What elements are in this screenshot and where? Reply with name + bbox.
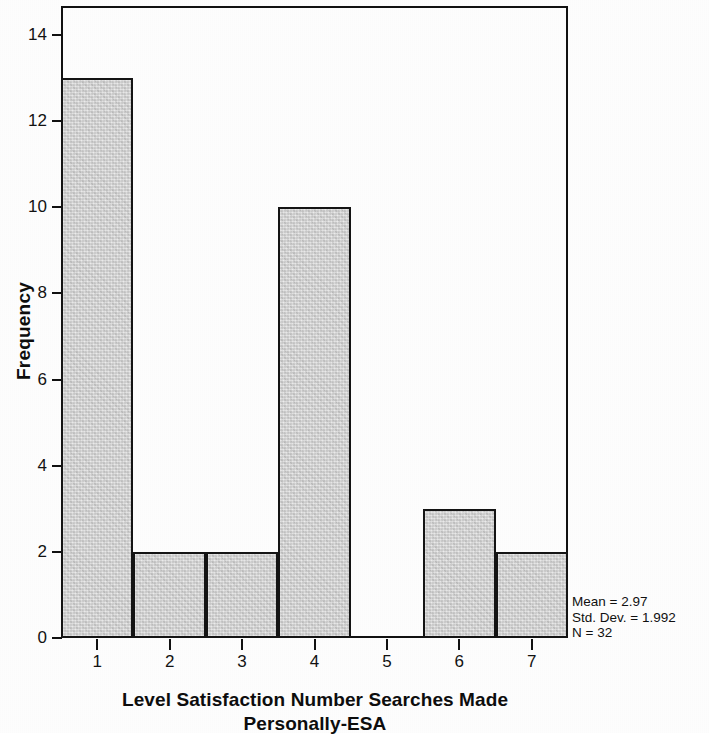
bar-7 — [496, 552, 568, 638]
y-tick-label: 0 — [13, 629, 47, 646]
x-tick-label: 7 — [512, 653, 552, 670]
stat-mean: Mean = 2.97 — [572, 594, 676, 610]
x-tick-label: 5 — [367, 653, 407, 670]
statistics-annotation: Mean = 2.97 Std. Dev. = 1.992 N = 32 — [572, 594, 676, 641]
x-tick-mark — [458, 639, 460, 650]
x-tick-mark — [531, 639, 533, 650]
x-tick-label: 4 — [295, 653, 335, 670]
y-tick-label: 12 — [13, 112, 47, 129]
y-tick-label: 6 — [13, 371, 47, 388]
x-tick-mark — [386, 639, 388, 650]
x-tick-mark — [169, 639, 171, 650]
bar-4 — [278, 207, 350, 638]
bar-2 — [133, 552, 205, 638]
x-tick-label: 6 — [439, 653, 479, 670]
x-tick-mark — [241, 639, 243, 650]
y-tick-label: 4 — [13, 457, 47, 474]
x-axis-title-line-2: Personally-ESA — [30, 712, 600, 736]
bars-container — [61, 6, 568, 638]
x-axis-title: Level Satisfaction Number Searches Made … — [30, 688, 600, 736]
stat-std-dev: Std. Dev. = 1.992 — [572, 610, 676, 626]
x-tick-label: 3 — [222, 653, 262, 670]
y-tick-label: 2 — [13, 543, 47, 560]
y-tick-label: 10 — [13, 198, 47, 215]
y-axis-title: Frequency — [13, 221, 35, 441]
y-tick-label: 14 — [13, 26, 47, 43]
bar-6 — [423, 509, 495, 638]
x-tick-label: 2 — [150, 653, 190, 670]
x-tick-mark — [96, 639, 98, 650]
bar-3 — [206, 552, 278, 638]
x-tick-label: 1 — [77, 653, 117, 670]
stat-n: N = 32 — [572, 625, 676, 641]
x-tick-mark — [314, 639, 316, 650]
y-tick-label: 8 — [13, 284, 47, 301]
bar-1 — [61, 78, 133, 638]
x-axis-title-line-1: Level Satisfaction Number Searches Made — [122, 689, 508, 710]
